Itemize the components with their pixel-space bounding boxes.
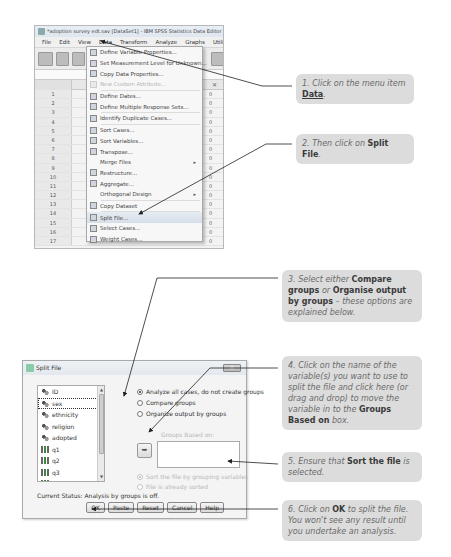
toolbar-icon-right[interactable]: [211, 52, 224, 66]
row-number[interactable]: 2: [35, 99, 72, 107]
row-number[interactable]: 15: [35, 219, 72, 227]
help-button[interactable]: Help: [200, 502, 224, 513]
row-number[interactable]: 11: [35, 182, 72, 190]
radio-analyze-all-cases[interactable]: Analyze all cases, do not create groups: [137, 388, 264, 395]
row-number[interactable]: 3: [35, 108, 72, 116]
move-variable-button[interactable]: ➥: [137, 443, 152, 458]
save-icon[interactable]: [56, 52, 69, 66]
radio-dot[interactable]: [137, 474, 143, 480]
radio-dot[interactable]: [137, 389, 143, 395]
cell-value[interactable]: 0: [209, 99, 223, 107]
menu-item-restructure[interactable]: Restructure...: [87, 168, 202, 179]
menu-item-define-multiple-response[interactable]: Define Multiple Response Sets...: [87, 101, 202, 112]
menu-item-identify-duplicate-cases[interactable]: Identify Duplicate Cases...: [87, 113, 202, 124]
cell-value[interactable]: 0: [209, 200, 223, 208]
row-number[interactable]: 6: [35, 136, 72, 144]
menu-item-sort-variables[interactable]: Sort Variables...: [87, 136, 202, 147]
variable-item-sex[interactable]: sex: [38, 398, 104, 410]
menu-item-define-dates[interactable]: Define Dates...: [87, 91, 202, 102]
row-number[interactable]: 5: [35, 127, 72, 135]
scroll-up-icon[interactable]: ▲: [99, 387, 104, 393]
cell-value[interactable]: 0: [209, 118, 223, 126]
row-number[interactable]: 17: [35, 237, 72, 245]
cell-value[interactable]: 0: [209, 145, 223, 153]
variable-name: ethnicity: [52, 411, 78, 418]
cell-value[interactable]: 0: [209, 136, 223, 144]
radio-organize-output[interactable]: Organize output by groups: [137, 410, 226, 417]
open-folder-icon[interactable]: [38, 52, 53, 66]
row-number[interactable]: 1: [35, 90, 72, 98]
row-number[interactable]: 10: [35, 173, 72, 181]
paste-button[interactable]: Paste: [108, 502, 134, 513]
cell-value[interactable]: 0: [209, 182, 223, 190]
cell-value[interactable]: 0: [209, 154, 223, 162]
variable-item-ethnicity[interactable]: ethnicity: [38, 409, 104, 421]
menu-item-weight-cases[interactable]: Weight Cases...: [87, 234, 202, 245]
cell-value[interactable]: 0: [209, 228, 223, 236]
ok-button[interactable]: OK: [86, 502, 105, 513]
variable-list-scrollbar[interactable]: ▲ ▼: [97, 386, 104, 481]
variable-item-q4[interactable]: q4: [38, 478, 104, 482]
menu-item-define-variable-properties[interactable]: Define Variable Properties...: [87, 47, 202, 58]
radio-already-sorted[interactable]: File is already sorted: [137, 483, 208, 490]
nominal-variable-icon: [41, 423, 49, 430]
row-number[interactable]: 12: [35, 191, 72, 199]
variable-item-adopted[interactable]: adopted: [38, 432, 104, 444]
cell-value[interactable]: 0: [209, 173, 223, 181]
reset-button[interactable]: Reset: [137, 502, 164, 513]
cell-value[interactable]: 0: [209, 191, 223, 199]
menu-item-label: Split File...: [100, 215, 128, 221]
variable-item-q1[interactable]: q1: [38, 444, 104, 456]
menu-item-split-file[interactable]: Split File...: [87, 212, 202, 223]
dialog-title: Split File: [36, 364, 61, 371]
menu-item-label: Set Measurement Level for Unknown...: [100, 60, 207, 66]
menu-item-merge-files[interactable]: Merge Files▸: [87, 157, 202, 168]
close-icon[interactable]: ✕: [212, 80, 217, 90]
variable-list[interactable]: ID sex ethnicity religion adopted q1 q2 …: [37, 385, 105, 482]
row-number[interactable]: 8: [35, 154, 72, 162]
cell-value[interactable]: 0: [209, 237, 223, 245]
radio-dot[interactable]: [137, 484, 143, 490]
variable-name: q4: [52, 480, 60, 482]
scale-variable-icon: [41, 480, 49, 482]
menu-item-aggregate[interactable]: Aggregate...: [87, 178, 202, 189]
variable-item-q3[interactable]: q3: [38, 467, 104, 479]
cell-value[interactable]: 0: [209, 127, 223, 135]
menu-item-select-cases[interactable]: Select Cases...: [87, 223, 202, 234]
row-number[interactable]: 13: [35, 200, 72, 208]
cell-value[interactable]: 0: [209, 164, 223, 172]
menu-utilities[interactable]: Utilities: [209, 37, 224, 47]
cell-value[interactable]: 0: [209, 219, 223, 227]
cell-value[interactable]: 0: [209, 108, 223, 116]
row-number[interactable]: 7: [35, 145, 72, 153]
cell-value[interactable]: 0: [209, 209, 223, 217]
window-title-bar: *adoption survey edt.sav [DataSet1] - IB…: [35, 26, 223, 37]
variable-item-q2[interactable]: q2: [38, 455, 104, 467]
menu-item-label: Aggregate...: [100, 181, 134, 187]
menu-file[interactable]: File: [38, 37, 55, 47]
menu-edit[interactable]: Edit: [55, 37, 74, 47]
row-number[interactable]: 9: [35, 164, 72, 172]
radio-sort-file[interactable]: Sort the file by grouping variables: [137, 473, 248, 480]
row-number[interactable]: 16: [35, 228, 72, 236]
cell-value[interactable]: 0: [209, 90, 223, 98]
menu-item-copy-data-properties[interactable]: Copy Data Properties...: [87, 68, 202, 79]
scroll-down-icon[interactable]: ▼: [99, 474, 104, 480]
row-number[interactable]: 4: [35, 118, 72, 126]
scrollbar-thumb[interactable]: [99, 394, 104, 454]
close-button[interactable]: ✕: [223, 364, 241, 372]
menu-item-orthogonal-design[interactable]: Orthogonal Design▸: [87, 189, 202, 200]
row-number[interactable]: 14: [35, 209, 72, 217]
radio-dot[interactable]: [137, 400, 143, 406]
menu-item-set-measurement-level[interactable]: Set Measurement Level for Unknown...: [87, 58, 202, 69]
print-icon[interactable]: [72, 52, 85, 66]
variable-item-id[interactable]: ID: [38, 386, 104, 398]
menu-item-sort-cases[interactable]: Sort Cases...: [87, 125, 202, 136]
radio-dot[interactable]: [137, 411, 143, 417]
menu-item-transpose[interactable]: Transpose...: [87, 146, 202, 157]
radio-compare-groups[interactable]: Compare groups: [137, 399, 196, 406]
menu-item-copy-dataset[interactable]: Copy Dataset: [87, 201, 202, 212]
variable-item-religion[interactable]: religion: [38, 421, 104, 433]
cancel-button[interactable]: Cancel: [167, 502, 197, 513]
groups-based-on-list[interactable]: [157, 441, 240, 468]
